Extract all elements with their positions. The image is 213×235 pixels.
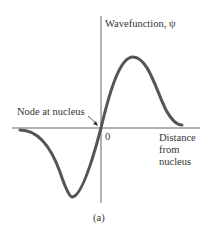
- wavefunction-plot: [0, 0, 213, 235]
- x-axis-label-line-2: from: [159, 144, 179, 155]
- x-axis-label-line-3: nucleus: [159, 156, 191, 167]
- origin-label: 0: [105, 131, 110, 142]
- x-axis-label-line-1: Distance: [159, 132, 196, 143]
- node-annotation: Node at nucleus: [17, 106, 85, 117]
- node-pointer-arrowhead: [93, 121, 98, 126]
- y-axis-label: Wavefunction, ψ: [105, 18, 175, 29]
- figure-caption: (a): [93, 212, 105, 223]
